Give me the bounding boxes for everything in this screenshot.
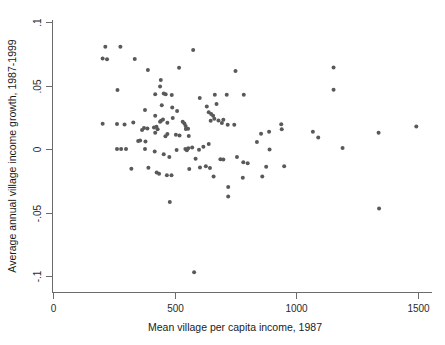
scatter-point xyxy=(209,119,213,123)
scatter-point xyxy=(101,56,105,60)
scatter-point xyxy=(163,134,167,138)
scatter-point xyxy=(143,147,147,151)
scatter-point xyxy=(145,126,149,130)
y-tick-label: .1 xyxy=(32,18,43,27)
scatter-point xyxy=(225,93,229,97)
scatter-point xyxy=(241,160,245,164)
scatter-point xyxy=(157,172,161,176)
plot-canvas: .1.050-.05-.1 050010001500 Mean village … xyxy=(0,0,445,345)
scatter-point xyxy=(332,88,336,92)
scatter-point xyxy=(170,93,174,97)
scatter-point xyxy=(212,175,216,179)
scatter-point xyxy=(192,270,196,274)
scatter-point xyxy=(232,123,236,127)
scatter-point xyxy=(103,45,107,49)
scatter-point xyxy=(143,140,147,144)
scatter-point xyxy=(377,131,381,135)
scatter-point xyxy=(153,131,157,135)
scatter-point xyxy=(341,146,345,150)
scatter-point xyxy=(165,121,169,125)
scatter-point xyxy=(129,167,133,171)
scatter-point xyxy=(235,155,239,159)
scatter-point xyxy=(201,145,205,149)
scatter-point xyxy=(186,127,190,131)
scatter-point xyxy=(146,68,150,72)
scatter-point xyxy=(205,104,209,108)
scatter-point xyxy=(186,146,190,150)
scatter-point xyxy=(168,200,172,204)
scatter-point xyxy=(234,69,238,73)
scatter-point xyxy=(164,92,168,96)
scatter-point xyxy=(280,127,284,131)
scatter-point xyxy=(115,147,119,151)
scatter-point xyxy=(178,133,182,137)
scatter-point xyxy=(177,66,181,70)
x-tick-label: 0 xyxy=(51,303,57,314)
scatter-point xyxy=(158,85,162,89)
scatter-point xyxy=(101,122,105,126)
scatter-point xyxy=(226,123,230,127)
scatter-point xyxy=(264,165,268,169)
scatter-plot-figure: .1.050-.05-.1 050010001500 Mean village … xyxy=(0,0,445,345)
scatter-point xyxy=(115,88,119,92)
scatter-point xyxy=(242,93,246,97)
scatter-point xyxy=(246,161,250,165)
scatter-point xyxy=(118,45,122,49)
scatter-point xyxy=(259,132,263,136)
scatter-point xyxy=(133,57,137,61)
scatter-point xyxy=(175,109,179,113)
scatter-point xyxy=(207,142,211,146)
scatter-point xyxy=(226,195,230,199)
scatter-point xyxy=(255,140,259,144)
scatter-point xyxy=(115,122,119,126)
y-tick-label: .05 xyxy=(32,79,43,93)
scatter-point xyxy=(175,148,179,152)
scatter-point xyxy=(153,150,157,154)
scatter-point xyxy=(216,118,220,122)
scatter-point xyxy=(153,92,157,96)
scatter-point xyxy=(174,133,178,137)
x-tick-label: 500 xyxy=(167,303,184,314)
scatter-point xyxy=(197,148,201,152)
scatter-point xyxy=(153,114,157,118)
scatter-point xyxy=(154,125,158,129)
scatter-point xyxy=(377,206,381,210)
x-tick-label: 1500 xyxy=(407,303,430,314)
y-tick-label: 0 xyxy=(32,146,43,152)
scatter-point xyxy=(131,120,135,124)
scatter-point xyxy=(204,164,208,168)
scatter-point xyxy=(212,117,216,121)
scatter-point xyxy=(213,93,217,97)
scatter-point xyxy=(226,185,230,189)
scatter-point xyxy=(187,134,191,138)
scatter-point xyxy=(187,167,191,171)
scatter-point xyxy=(332,66,336,70)
scatter-point xyxy=(160,103,164,107)
y-tick-label: -.1 xyxy=(32,270,43,282)
scatter-point xyxy=(124,147,128,151)
scatter-point xyxy=(170,105,174,109)
scatter-point xyxy=(221,158,225,162)
y-axis-title: Average annual village income growth, 19… xyxy=(6,39,18,272)
scatter-point xyxy=(143,108,147,112)
scatter-point xyxy=(241,176,245,180)
scatter-point xyxy=(279,122,283,126)
scatter-point xyxy=(198,165,202,169)
scatter-point xyxy=(260,174,264,178)
scatter-point xyxy=(282,164,286,168)
scatter-point xyxy=(215,102,219,106)
scatter-point xyxy=(190,145,194,149)
scatter-point xyxy=(167,155,171,159)
y-tick-label: -.05 xyxy=(32,204,43,222)
scatter-point xyxy=(170,173,174,177)
scatter-point xyxy=(140,128,144,132)
scatter-point xyxy=(267,130,271,134)
scatter-point xyxy=(159,78,163,82)
x-axis-title: Mean village per capita income, 1987 xyxy=(148,321,322,333)
plot-background xyxy=(0,0,445,345)
scatter-point xyxy=(198,96,202,100)
scatter-point xyxy=(138,139,142,143)
scatter-point xyxy=(146,166,150,170)
scatter-point xyxy=(105,57,109,61)
scatter-point xyxy=(171,116,175,120)
